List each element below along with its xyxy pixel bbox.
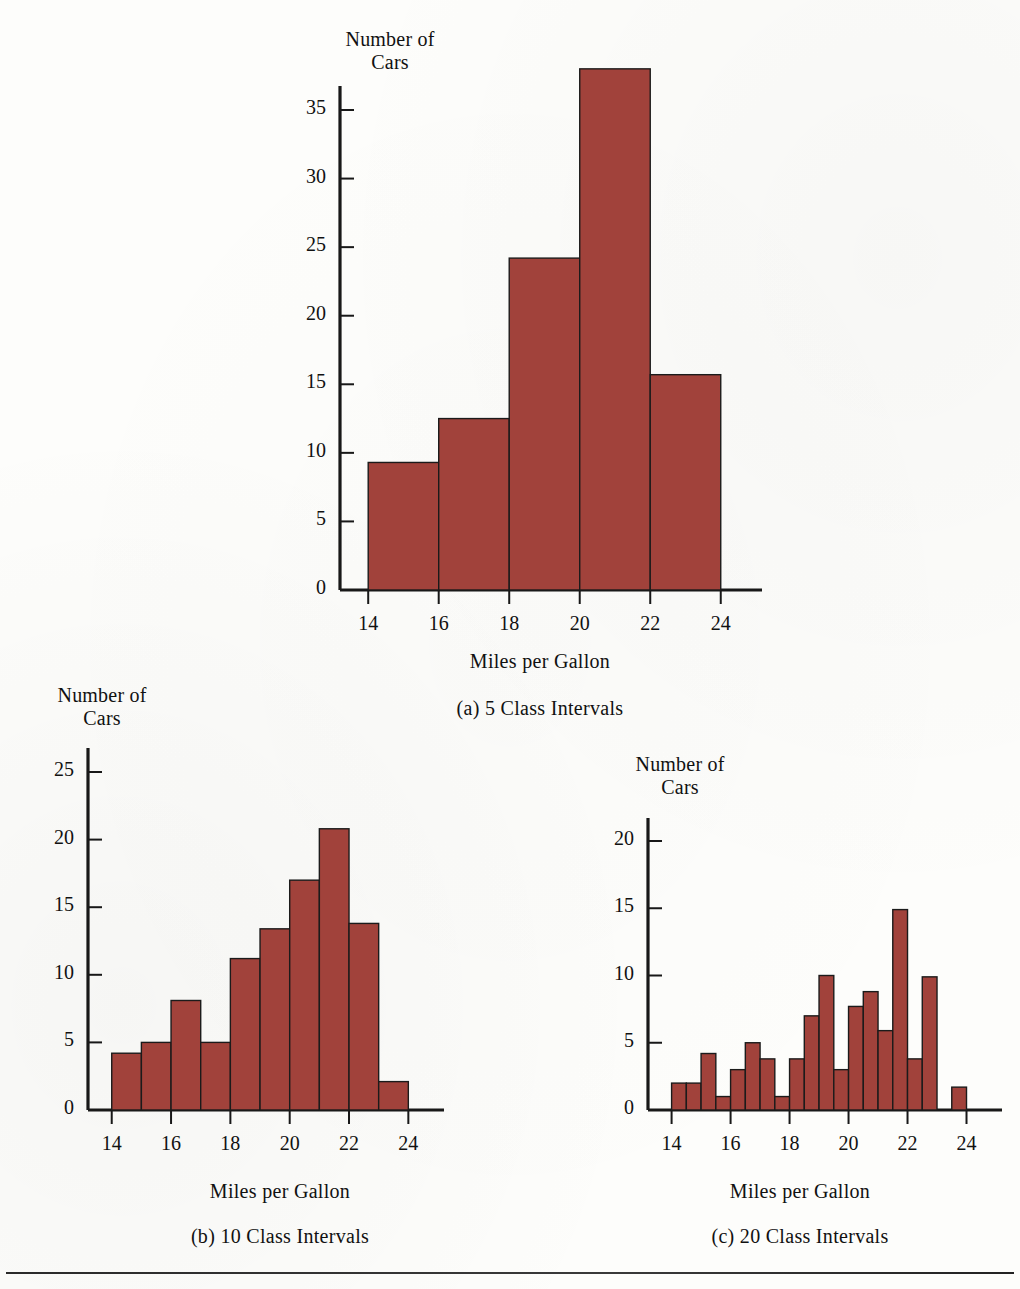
histogram-panel-c: Number of Cars Miles per Gallon (c) 20 C… (560, 0, 1020, 1289)
page-footer-rule (6, 1272, 1014, 1274)
histogram-bar (379, 1082, 409, 1110)
histogram-bar (804, 1016, 819, 1110)
y-tick-label: 20 (22, 826, 74, 849)
histogram-bar (775, 1097, 790, 1110)
x-tick-label: 14 (646, 1132, 698, 1155)
histogram-bar (849, 1006, 864, 1110)
histogram-bar (745, 1043, 760, 1110)
histogram-bar (171, 1000, 201, 1110)
x-tick-label: 20 (264, 1132, 316, 1155)
histogram-bar (834, 1070, 849, 1110)
histogram-bar (112, 1053, 142, 1110)
histogram-bar (922, 977, 937, 1110)
histogram-bar (672, 1083, 687, 1110)
x-tick-label: 14 (86, 1132, 138, 1155)
histogram-bar (260, 929, 290, 1110)
histogram-bar (701, 1054, 716, 1110)
histogram-bar (141, 1042, 171, 1110)
x-tick-label: 16 (705, 1132, 757, 1155)
histogram-bar (819, 976, 834, 1111)
x-tick-label: 18 (204, 1132, 256, 1155)
y-tick-label: 15 (22, 893, 74, 916)
x-tick-label: 22 (882, 1132, 934, 1155)
x-tick-label: 24 (941, 1132, 993, 1155)
histogram-bar (230, 959, 260, 1110)
panel-c-x-axis-title: Miles per Gallon (650, 1180, 950, 1203)
panel-c-plot (560, 0, 1020, 1180)
y-tick-label: 5 (582, 1029, 634, 1052)
histogram-bar (760, 1059, 775, 1110)
panel-b-caption: (b) 10 Class Intervals (120, 1225, 440, 1248)
y-tick-label: 20 (582, 827, 634, 850)
y-tick-label: 15 (582, 894, 634, 917)
histogram-bar (908, 1059, 923, 1110)
y-tick-label: 10 (582, 962, 634, 985)
histogram-bar (790, 1059, 805, 1110)
x-tick-label: 22 (323, 1132, 375, 1155)
histogram-bar (863, 992, 878, 1110)
histogram-bar (201, 1042, 231, 1110)
panel-b-x-axis-title: Miles per Gallon (130, 1180, 430, 1203)
x-tick-label: 18 (764, 1132, 816, 1155)
y-tick-label: 10 (22, 961, 74, 984)
y-tick-label: 25 (22, 758, 74, 781)
y-tick-label: 0 (582, 1096, 634, 1119)
histogram-bar (686, 1083, 701, 1110)
x-tick-label: 24 (382, 1132, 434, 1155)
panel-b-plot (0, 0, 520, 1180)
x-tick-label: 20 (823, 1132, 875, 1155)
histogram-bar (731, 1070, 746, 1110)
histogram-bar (952, 1087, 967, 1110)
histogram-bar (349, 923, 379, 1110)
y-tick-label: 5 (22, 1028, 74, 1051)
histogram-bar (893, 910, 908, 1110)
histogram-bar (290, 880, 320, 1110)
panel-c-caption: (c) 20 Class Intervals (640, 1225, 960, 1248)
histogram-panel-b: Number of Cars Miles per Gallon (b) 10 C… (0, 0, 520, 1289)
histogram-bar (878, 1031, 893, 1110)
histogram-bar (319, 829, 349, 1110)
y-tick-label: 0 (22, 1096, 74, 1119)
histogram-bar (716, 1097, 731, 1110)
x-tick-label: 16 (145, 1132, 197, 1155)
